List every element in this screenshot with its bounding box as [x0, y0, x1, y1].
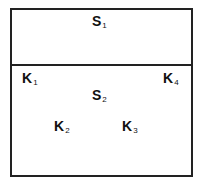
label-s1: S1: [92, 14, 107, 28]
label-k3: K3: [122, 119, 138, 133]
region-divider: [10, 64, 193, 66]
label-k4: K4: [163, 71, 179, 85]
label-s2: S2: [92, 88, 107, 102]
label-k2: K2: [54, 119, 70, 133]
label-k1: K1: [22, 71, 38, 85]
